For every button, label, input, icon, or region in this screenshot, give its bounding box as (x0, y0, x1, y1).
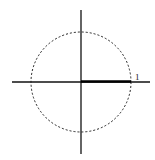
segment-label: 1 (135, 72, 140, 82)
unit-circle-diagram (0, 0, 155, 160)
